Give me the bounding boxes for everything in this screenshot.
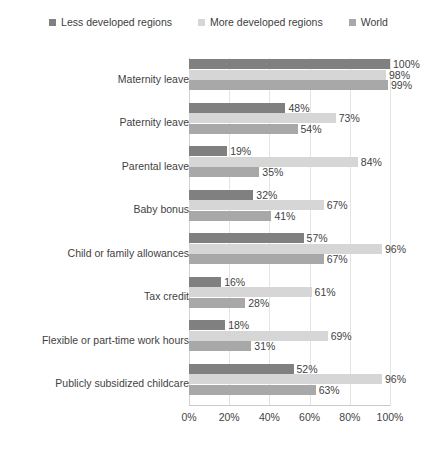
x-tick-label: 100%: [377, 411, 404, 423]
bar[interactable]: 54%: [189, 124, 390, 134]
bar[interactable]: 32%: [189, 190, 390, 200]
legend-swatch-icon: [349, 19, 356, 26]
x-tick-label: 80%: [339, 411, 360, 423]
bar-value-label: 48%: [285, 102, 309, 114]
bar-group: 18%69%31%: [189, 319, 390, 363]
bar-fill: [189, 113, 336, 123]
bar[interactable]: 99%: [189, 80, 390, 90]
category-label: Paternity leave: [3, 116, 189, 128]
bar-value-label: 67%: [324, 253, 348, 265]
bar-value-label: 67%: [324, 199, 348, 211]
bar[interactable]: 67%: [189, 200, 390, 210]
chart-legend: Less developed regionsMore developed reg…: [0, 17, 437, 28]
bar-group: 16%61%28%: [189, 276, 390, 320]
plot-area: 100%98%99%48%73%54%19%84%35%32%67%41%57%…: [189, 58, 390, 406]
bar-fill: [189, 146, 227, 156]
bar-fill: [189, 331, 328, 341]
bar-value-label: 57%: [304, 232, 328, 244]
bar[interactable]: 98%: [189, 70, 390, 80]
bar-value-label: 84%: [358, 156, 382, 168]
bar-fill: [189, 287, 312, 297]
bar-value-label: 35%: [259, 166, 283, 178]
legend-swatch-icon: [198, 19, 205, 26]
bar[interactable]: 63%: [189, 385, 390, 395]
bar-value-label: 32%: [253, 189, 277, 201]
bar[interactable]: 69%: [189, 331, 390, 341]
legend-item-label: More developed regions: [210, 17, 323, 28]
category-label: Baby bonus: [3, 203, 189, 215]
bar-fill: [189, 277, 221, 287]
bar-value-label: 31%: [251, 340, 275, 352]
bar-group: 100%98%99%: [189, 58, 390, 102]
bar[interactable]: 96%: [189, 244, 390, 254]
bar-value-label: 99%: [388, 79, 412, 91]
bar-value-label: 96%: [382, 373, 406, 385]
bar-fill: [189, 103, 285, 113]
bar-fill: [189, 70, 386, 80]
bar-fill: [189, 157, 358, 167]
bar-fill: [189, 298, 245, 308]
bar-value-label: 52%: [294, 363, 318, 375]
category-label: Publicly subsidized childcare: [3, 377, 189, 389]
category-label: Maternity leave: [3, 73, 189, 85]
legend-swatch-icon: [49, 19, 56, 26]
bar-value-label: 96%: [382, 243, 406, 255]
bar[interactable]: 35%: [189, 167, 390, 177]
bar[interactable]: 61%: [189, 287, 390, 297]
x-tick-label: 60%: [299, 411, 320, 423]
category-label: Child or family allowances: [3, 247, 189, 259]
category-label: Parental leave: [3, 160, 189, 172]
bar-value-label: 18%: [225, 319, 249, 331]
bar[interactable]: 28%: [189, 298, 390, 308]
bar-fill: [189, 124, 298, 134]
legend-item-label: Less developed regions: [61, 17, 172, 28]
bar[interactable]: 31%: [189, 341, 390, 351]
bar-fill: [189, 80, 388, 90]
bar[interactable]: 96%: [189, 374, 390, 384]
bar-fill: [189, 244, 382, 254]
bar-fill: [189, 167, 259, 177]
bar[interactable]: 18%: [189, 320, 390, 330]
bar-value-label: 69%: [328, 330, 352, 342]
bar[interactable]: 19%: [189, 146, 390, 156]
legend-item[interactable]: More developed regions: [198, 17, 323, 28]
bar[interactable]: 16%: [189, 277, 390, 287]
legend-item-label: World: [361, 17, 388, 28]
bar[interactable]: 100%: [189, 59, 390, 69]
category-label: Tax credit: [3, 290, 189, 302]
legend-item[interactable]: World: [349, 17, 388, 28]
bar-value-label: 16%: [221, 276, 245, 288]
gridline: [390, 58, 391, 406]
bar-fill: [189, 59, 390, 69]
x-tick-label: 40%: [259, 411, 280, 423]
x-tick-label: 20%: [219, 411, 240, 423]
bar-value-label: 61%: [312, 286, 336, 298]
bar-value-label: 63%: [316, 384, 340, 396]
bar[interactable]: 67%: [189, 254, 390, 264]
bar-value-label: 73%: [336, 112, 360, 124]
bar[interactable]: 73%: [189, 113, 390, 123]
bar-group: 57%96%67%: [189, 232, 390, 276]
legend-item[interactable]: Less developed regions: [49, 17, 172, 28]
category-label: Flexible or part-time work hours: [3, 334, 189, 346]
bar-value-label: 28%: [245, 297, 269, 309]
bar[interactable]: 48%: [189, 103, 390, 113]
bar-fill: [189, 385, 316, 395]
bar-fill: [189, 341, 251, 351]
x-axis-line: [189, 405, 390, 406]
bar-value-label: 54%: [298, 123, 322, 135]
bar-fill: [189, 190, 253, 200]
bar[interactable]: 84%: [189, 157, 390, 167]
bar-fill: [189, 374, 382, 384]
grouped-bar-chart: Less developed regionsMore developed reg…: [0, 0, 437, 449]
bar-group: 48%73%54%: [189, 102, 390, 146]
bar-fill: [189, 364, 294, 374]
bar[interactable]: 52%: [189, 364, 390, 374]
bar[interactable]: 57%: [189, 233, 390, 243]
bar-fill: [189, 233, 304, 243]
x-tick-label: 0%: [181, 411, 196, 423]
bar[interactable]: 41%: [189, 211, 390, 221]
bar-fill: [189, 211, 271, 221]
bar-fill: [189, 200, 324, 210]
bar-fill: [189, 254, 324, 264]
